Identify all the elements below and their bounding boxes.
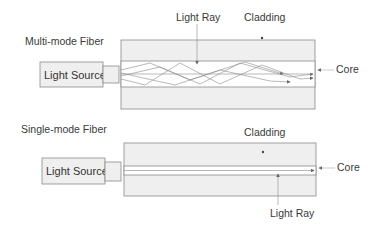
singlemode-diagram: Single-mode Fiber Light Source Cladding …: [21, 123, 360, 219]
multimode-diagram: Multi-mode Fiber Light Source Light Ray …: [25, 11, 359, 109]
multimode-source-label: Light Source: [44, 69, 106, 81]
singlemode-title: Single-mode Fiber: [21, 123, 107, 135]
singlemode-core-label: Core: [337, 161, 360, 173]
multimode-cladding-label: Cladding: [244, 11, 286, 23]
singlemode-connector: [105, 162, 121, 181]
multimode-light-ray-label: Light Ray: [176, 11, 221, 23]
multimode-core-label: Core: [336, 63, 359, 75]
singlemode-light-ray-label: Light Ray: [270, 207, 315, 219]
multimode-title: Multi-mode Fiber: [25, 35, 104, 47]
singlemode-cladding-label: Cladding: [244, 126, 286, 138]
singlemode-source-label: Light Source: [46, 165, 108, 177]
fiber-diagram: Multi-mode Fiber Light Source Light Ray …: [0, 0, 379, 234]
multimode-connector: [103, 66, 119, 83]
